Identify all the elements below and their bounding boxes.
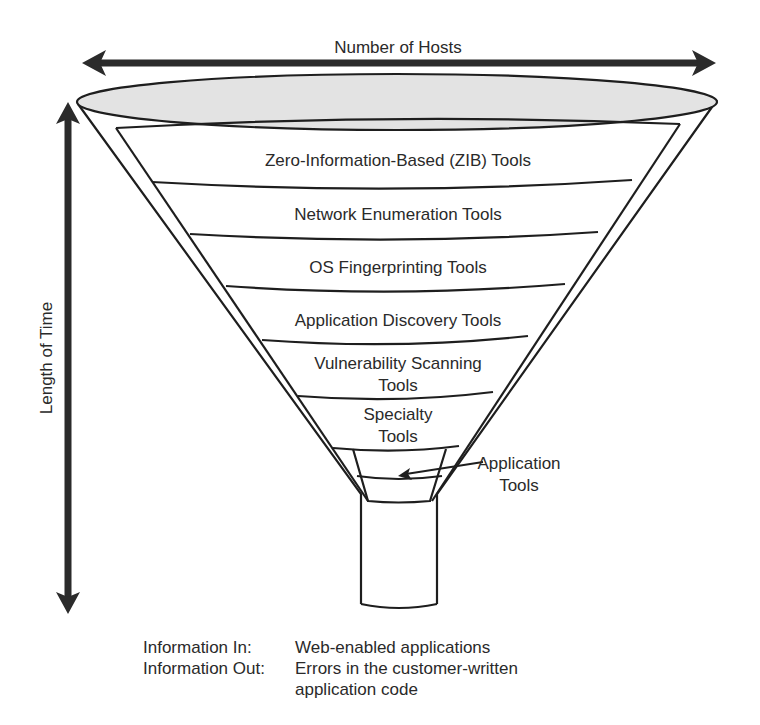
length-of-time-arrow-icon <box>56 102 80 614</box>
band-label-specialty-line2: Tools <box>378 427 418 446</box>
band-label-os-fingerprinting: OS Fingerprinting Tools <box>309 258 486 277</box>
length-of-time-label: Length of Time <box>37 302 56 414</box>
band-label-network-enumeration: Network Enumeration Tools <box>294 205 502 224</box>
band-label-zib: Zero-Information-Based (ZIB) Tools <box>265 151 531 170</box>
band-label-vulnerability-scanning-line2: Tools <box>378 376 418 395</box>
callout-label-application: Application <box>477 454 560 473</box>
tool-funnel-diagram: Number of Hosts Length of Time Zero-Info… <box>0 0 760 725</box>
band-label-vulnerability-scanning-line1: Vulnerability Scanning <box>314 354 482 373</box>
callout-label-tools: Tools <box>499 476 539 495</box>
information-out-value-line1: Errors in the customer-written <box>295 659 518 678</box>
information-in-value: Web-enabled applications <box>295 638 490 657</box>
information-out-value-line2: application code <box>295 680 418 699</box>
information-out-label: Information Out: <box>143 659 265 678</box>
band-label-application-discovery: Application Discovery Tools <box>295 311 502 330</box>
information-in-label: Information In: <box>143 638 252 657</box>
band-label-specialty-line1: Specialty <box>364 405 433 424</box>
number-of-hosts-label: Number of Hosts <box>334 38 462 57</box>
